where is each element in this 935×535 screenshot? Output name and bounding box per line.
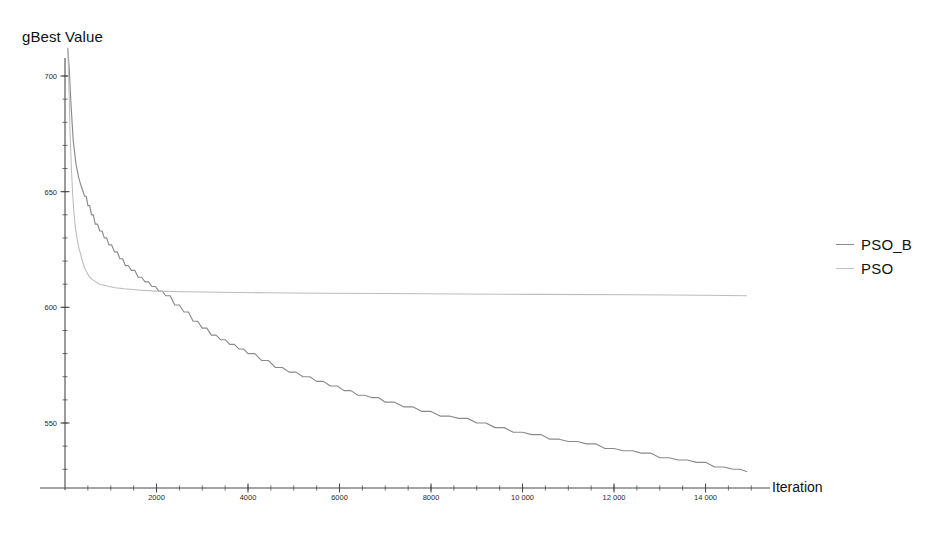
legend-label-pso: PSO — [861, 260, 893, 277]
chart-container: gBest Value 7006506005502000400060008000… — [0, 0, 935, 535]
series-line-pso_b — [68, 48, 747, 471]
legend-swatch-pso-b — [836, 244, 854, 245]
x-tick-label: 6000 — [331, 493, 348, 502]
legend-swatch-pso — [836, 268, 854, 269]
y-tick-label: 550 — [44, 419, 57, 428]
y-tick-label: 600 — [44, 303, 57, 312]
x-tick-label: 2000 — [148, 493, 165, 502]
legend-item-pso: PSO — [836, 256, 932, 280]
x-tick-label: 4000 — [240, 493, 257, 502]
legend-item-pso-b: PSO_B — [836, 232, 932, 256]
x-tick-label: 10 000 — [511, 493, 534, 502]
x-tick-label: 8000 — [423, 493, 440, 502]
legend-label-pso-b: PSO_B — [861, 236, 912, 253]
chart-legend: PSO_B PSO — [836, 232, 932, 280]
series-line-pso — [68, 48, 747, 296]
plot-area: 700650600550200040006000800010 00012 000… — [0, 0, 935, 535]
y-tick-label: 700 — [44, 72, 57, 81]
x-tick-label: 14 000 — [694, 493, 717, 502]
x-axis-title: Iteration — [772, 479, 823, 495]
x-tick-label: 12 000 — [603, 493, 626, 502]
y-tick-label: 650 — [44, 188, 57, 197]
